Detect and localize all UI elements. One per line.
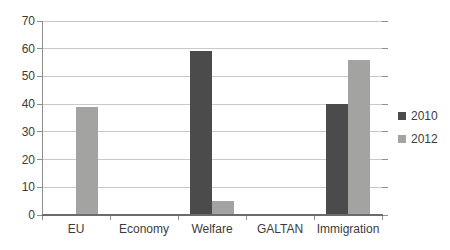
y-axis-label-60: 60 xyxy=(5,43,35,55)
gridline-50 xyxy=(42,76,382,77)
y-tick-right-10 xyxy=(382,187,388,188)
bar-immigration-2010 xyxy=(326,104,348,215)
y-axis-line xyxy=(42,21,43,216)
y-tick-right-30 xyxy=(382,131,388,132)
bar-welfare-2010 xyxy=(190,51,212,215)
x-axis-label-immigration: Immigration xyxy=(314,222,382,236)
y-axis-label-70: 70 xyxy=(5,15,35,27)
y-tick-right-60 xyxy=(382,48,388,49)
legend-item-2012: 2012 xyxy=(398,132,438,146)
x-axis-label-economy: Economy xyxy=(110,222,178,236)
bar-immigration-2012 xyxy=(348,60,370,215)
legend-label-2010: 2010 xyxy=(411,109,438,123)
y-axis-label-10: 10 xyxy=(5,181,35,193)
x-axis-label-welfare: Welfare xyxy=(178,222,246,236)
y-tick-right-20 xyxy=(382,159,388,160)
x-axis-line xyxy=(42,214,383,216)
y-tick-right-50 xyxy=(382,76,388,77)
y-axis-label-30: 30 xyxy=(5,126,35,138)
x-axis-label-galtan: GALTAN xyxy=(246,222,314,236)
legend-swatch-2012 xyxy=(398,135,406,143)
y-axis-label-20: 20 xyxy=(5,154,35,166)
y-axis-label-0: 0 xyxy=(5,209,35,221)
y-axis-label-50: 50 xyxy=(5,70,35,82)
x-axis-label-eu: EU xyxy=(42,222,110,236)
y-tick-right-40 xyxy=(382,104,388,105)
plot-area: 010203040506070EUEconomyWelfareGALTANImm… xyxy=(0,0,450,250)
legend-label-2012: 2012 xyxy=(411,132,438,146)
legend-swatch-2010 xyxy=(398,112,406,120)
y-tick-right-70 xyxy=(382,21,388,22)
bar-eu-2012 xyxy=(76,107,98,215)
bar-welfare-2012 xyxy=(212,201,234,215)
gridline-70 xyxy=(42,21,382,22)
legend: 2010 2012 xyxy=(398,109,438,146)
y-axis-label-40: 40 xyxy=(5,98,35,110)
gridline-60 xyxy=(42,48,382,49)
bar-chart: 010203040506070EUEconomyWelfareGALTANImm… xyxy=(0,0,450,250)
legend-item-2010: 2010 xyxy=(398,109,438,123)
